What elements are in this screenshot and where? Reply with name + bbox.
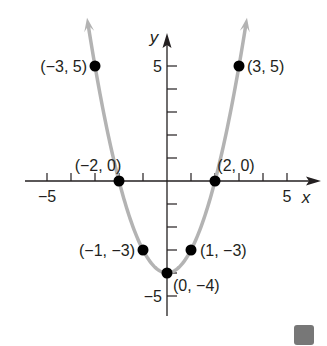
point-label: (3, 5) [247, 58, 284, 75]
data-point [90, 61, 101, 72]
point-label: (−1, −3) [79, 242, 135, 259]
point-label: (2, 0) [217, 157, 254, 174]
x-tick-label: 5 [283, 188, 292, 205]
data-point [186, 245, 197, 256]
parabola-chart: −555−5xy (−3, 5)(−2, 0)(−1, −3)(0, −4)(1… [0, 0, 327, 346]
data-point [138, 245, 149, 256]
y-tick-label: −5 [144, 288, 162, 305]
corner-square-icon [294, 325, 314, 345]
x-axis-label: x [301, 188, 311, 207]
data-point [234, 61, 245, 72]
y-tick-label: 5 [153, 58, 162, 75]
point-label: (0, −4) [173, 277, 220, 294]
data-point [210, 176, 221, 187]
y-axis-label: y [149, 28, 160, 47]
point-label: (−2, 0) [75, 157, 122, 174]
point-label: (1, −3) [200, 242, 247, 259]
data-point [114, 176, 125, 187]
point-label: (−3, 5) [40, 58, 87, 75]
x-tick-label: −5 [38, 188, 56, 205]
data-point [162, 268, 173, 279]
point-labels: (−3, 5)(−2, 0)(−1, −3)(0, −4)(1, −3)(2, … [40, 58, 284, 294]
